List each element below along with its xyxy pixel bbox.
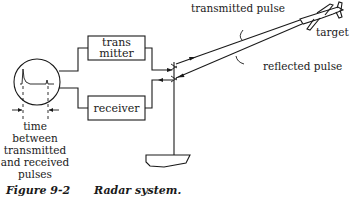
reflected-pulse-label: reflected pulse bbox=[263, 60, 342, 72]
transmitted-pulse-beam bbox=[176, 20, 300, 64]
time-label-1: time bbox=[23, 120, 47, 132]
scope-connections bbox=[59, 48, 88, 108]
receiver-label: receiver bbox=[94, 102, 141, 115]
transmitter-to-antenna bbox=[145, 48, 173, 72]
oscilloscope-display bbox=[12, 59, 60, 120]
label-leaders bbox=[236, 30, 244, 64]
time-label-2: between bbox=[12, 132, 58, 144]
antenna-to-receiver bbox=[145, 78, 173, 108]
time-label-5: pulses bbox=[18, 168, 52, 180]
receiver-block: receiver bbox=[88, 96, 145, 120]
target-label: target bbox=[316, 26, 349, 38]
transmitter-label-2: mitter bbox=[99, 47, 134, 60]
radar-system-diagram: trans mitter receiver bbox=[0, 0, 357, 202]
antenna bbox=[171, 62, 177, 155]
time-label-3: transmitted bbox=[4, 144, 67, 156]
transmitted-pulse-label: transmitted pulse bbox=[191, 2, 285, 14]
figure-number: Figure 9-2 bbox=[5, 184, 71, 197]
figure-caption: Radar system. bbox=[93, 184, 181, 197]
transmitter-block: trans mitter bbox=[88, 36, 145, 60]
time-label-4: and received bbox=[1, 156, 70, 168]
ship-hull bbox=[146, 155, 190, 167]
